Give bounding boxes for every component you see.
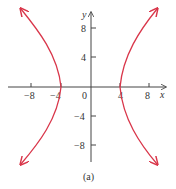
x-tick-label: −8 [24,90,35,101]
x-ticks [31,83,149,87]
hyperbola-chart: −8 −4 0 4 8 x 8 4 −4 −8 y (a) [0,0,176,189]
x-tick-label: 8 [145,90,150,101]
y-axis-label: y [81,9,87,20]
y-tick-label: 8 [81,23,86,34]
figure-caption: (a) [83,171,94,183]
y-tick-label: −4 [74,111,85,122]
x-axis-label: x [159,89,165,100]
y-tick-label: 4 [81,52,86,63]
y-tick-label: −8 [74,140,85,151]
x-tick-label: 0 [82,90,87,101]
